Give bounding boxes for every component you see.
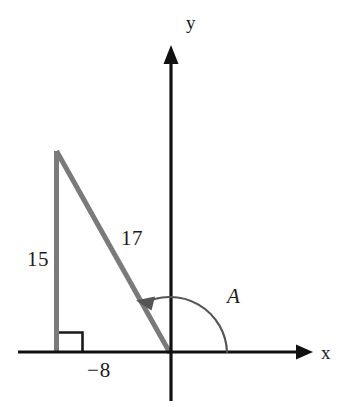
x-axis-label: x (321, 343, 331, 362)
angle-arc (136, 297, 227, 353)
x-axis-arrowhead (296, 345, 313, 360)
figure-canvas (0, 0, 342, 407)
side-label-hypotenuse: 17 (121, 228, 143, 249)
triangle-shape (57, 151, 171, 353)
right-angle-marker (59, 333, 83, 353)
side-label-adjacent: −8 (87, 360, 111, 381)
triangle-hypotenuse (57, 151, 171, 353)
y-axis-label: y (186, 13, 196, 32)
angle-label: A (227, 286, 240, 307)
side-label-opposite: 15 (27, 249, 49, 270)
y-axis-arrowhead (164, 45, 179, 64)
geometry-figure: y x 15 17 −8 A (0, 0, 342, 407)
